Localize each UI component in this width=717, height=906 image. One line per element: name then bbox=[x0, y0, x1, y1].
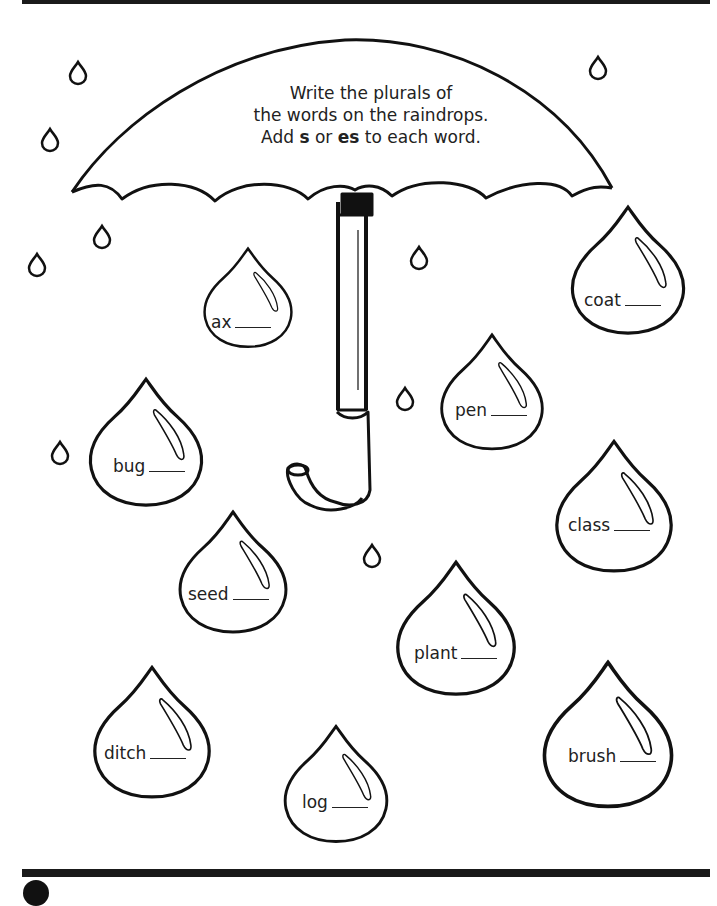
instructions-text: Write the plurals of the words on the ra… bbox=[240, 82, 502, 148]
small-raindrop-icon bbox=[42, 129, 58, 151]
raindrop-word-ditch: ditch bbox=[104, 743, 186, 763]
word-label: class bbox=[568, 515, 610, 535]
instructions-line-3-post: to each word. bbox=[359, 127, 480, 147]
small-raindrop-icon bbox=[590, 57, 606, 79]
raindrop-word-seed: seed bbox=[188, 584, 269, 604]
word-label: coat bbox=[584, 290, 621, 310]
instructions-line-1: Write the plurals of bbox=[240, 82, 502, 104]
raindrop-word-plant: plant bbox=[414, 643, 497, 663]
answer-blank[interactable] bbox=[491, 414, 527, 416]
raindrop-ax bbox=[205, 248, 292, 346]
raindrop-ditch bbox=[95, 667, 210, 797]
raindrop-log bbox=[285, 726, 387, 841]
instructions-line-3: Add s or es to each word. bbox=[240, 126, 502, 148]
raindrop-coat bbox=[572, 207, 683, 333]
page-corner-dot-icon bbox=[23, 880, 49, 906]
answer-blank[interactable] bbox=[332, 806, 368, 808]
word-label: brush bbox=[568, 746, 616, 766]
raindrop-pen bbox=[442, 335, 543, 449]
word-label: bug bbox=[113, 456, 145, 476]
word-label: plant bbox=[414, 643, 457, 663]
raindrop-word-log: log bbox=[302, 792, 368, 812]
small-raindrop-icon bbox=[70, 62, 86, 84]
word-label: seed bbox=[188, 584, 229, 604]
raindrop-brush bbox=[544, 662, 671, 806]
word-label: ax bbox=[211, 312, 231, 332]
instructions-line-2: the words on the raindrops. bbox=[240, 104, 502, 126]
answer-blank[interactable] bbox=[235, 326, 271, 328]
answer-blank[interactable] bbox=[620, 760, 656, 762]
suffix-s: s bbox=[299, 127, 309, 147]
raindrop-word-brush: brush bbox=[568, 746, 656, 766]
word-label: log bbox=[302, 792, 328, 812]
raindrop-word-bug: bug bbox=[113, 456, 185, 476]
raindrop-class bbox=[557, 441, 672, 571]
raindrop-word-ax: ax bbox=[211, 312, 271, 332]
raindrop-word-coat: coat bbox=[584, 290, 661, 310]
raindrop-bug bbox=[90, 379, 201, 505]
raindrop-word-class: class bbox=[568, 515, 650, 535]
answer-blank[interactable] bbox=[149, 470, 185, 472]
word-label: pen bbox=[455, 400, 487, 420]
word-label: ditch bbox=[104, 743, 146, 763]
bottom-border-rule bbox=[22, 869, 710, 877]
instructions-line-3-pre: Add bbox=[261, 127, 299, 147]
small-raindrop-icon bbox=[411, 247, 427, 269]
answer-blank[interactable] bbox=[625, 304, 661, 306]
small-raindrop-icon bbox=[52, 442, 68, 464]
raindrop-plant bbox=[398, 562, 515, 694]
answer-blank[interactable] bbox=[614, 529, 650, 531]
small-raindrop-icon bbox=[29, 254, 45, 276]
instructions-line-3-mid: or bbox=[310, 127, 338, 147]
raindrop-word-pen: pen bbox=[455, 400, 527, 420]
small-raindrop-icon bbox=[364, 545, 380, 567]
small-raindrop-icon bbox=[94, 226, 110, 248]
raindrop-seed bbox=[180, 512, 286, 632]
answer-blank[interactable] bbox=[461, 657, 497, 659]
answer-blank[interactable] bbox=[150, 757, 186, 759]
suffix-es: es bbox=[338, 127, 360, 147]
small-raindrop-icon bbox=[397, 388, 413, 410]
answer-blank[interactable] bbox=[233, 598, 269, 600]
